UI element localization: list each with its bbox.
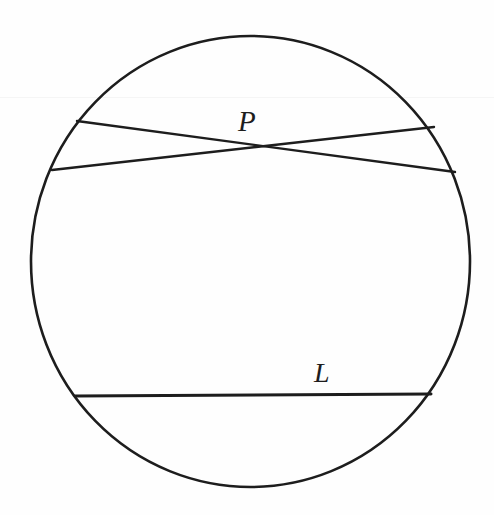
- point-label-p: P: [238, 107, 256, 136]
- geometry-figure: [0, 0, 494, 515]
- chord-l: [75, 394, 431, 396]
- diagram-canvas: P L: [0, 0, 494, 515]
- line-label-l: L: [314, 359, 330, 387]
- circle: [31, 36, 470, 487]
